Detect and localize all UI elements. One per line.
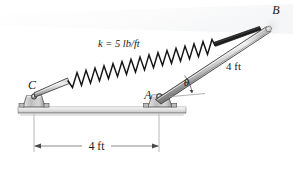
support-a-bolt-left (144, 103, 149, 107)
spring-constant-label: k = 5 lb/ft (98, 38, 141, 49)
ground-slab (18, 107, 186, 116)
support-a-bolt-right (172, 103, 177, 107)
point-a-label: A (143, 88, 152, 102)
angle-label: θ (184, 76, 190, 88)
support-c-bolt-left (19, 104, 24, 108)
statics-diagram-figure: 4 ft (0, 0, 293, 172)
span-length-label: 4 ft (89, 140, 105, 152)
support-c-bolt-right (44, 104, 49, 108)
point-c-label: C (28, 78, 37, 92)
diagram-canvas: 4 ft (0, 0, 293, 172)
bar-length-label: 4 ft (226, 60, 241, 72)
ground-shadow (18, 113, 186, 116)
support-c-pin-highlight (33, 95, 35, 97)
point-b-label: B (272, 3, 280, 17)
